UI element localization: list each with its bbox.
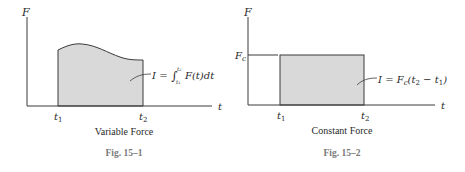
impulse-equation-constant: I = Fc(t2 − t1) [377, 74, 447, 87]
svg-text:F(t)dt: F(t)dt [184, 70, 215, 81]
caption-constant-force: Constant Force [312, 125, 373, 136]
figure-number-15-2: Fig. 15–2 [324, 148, 361, 158]
impulse-diagrams: F t t1 t2 I = ∫ t₂ t₁ F(t)dt Variable Fo… [0, 0, 465, 172]
x-axis-label: t [218, 101, 223, 112]
impulse-equation-integral: I = ∫ t₂ t₁ F(t)dt [151, 66, 215, 85]
svg-text:t₁: t₁ [176, 79, 180, 85]
t2-label: t2 [361, 110, 370, 123]
t1-label: t1 [277, 110, 286, 123]
figure-variable-force: F t t1 t2 I = ∫ t₂ t₁ F(t)dt Variable Fo… [21, 6, 223, 158]
t2-label: t2 [139, 111, 148, 124]
figure-number-15-1: Fig. 15–1 [106, 148, 143, 158]
impulse-area-constant [280, 55, 364, 105]
caption-variable-force: Variable Force [95, 126, 154, 137]
fc-label: Fc [234, 50, 246, 63]
y-axis-label: F [21, 6, 30, 19]
impulse-area-variable [58, 44, 143, 106]
figure-constant-force: F Fc t t1 t2 I = Fc(t2 − t1) Constant Fo… [234, 6, 447, 158]
x-axis-label: t [441, 100, 446, 111]
y-axis-label: F [243, 6, 252, 19]
svg-text:I =: I = [151, 70, 168, 81]
svg-text:t₂: t₂ [177, 66, 181, 72]
t1-label: t1 [54, 111, 63, 124]
